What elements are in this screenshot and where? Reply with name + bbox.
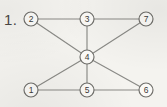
graph-node-label-1: 1 bbox=[29, 85, 34, 95]
graph-node-2: 2 bbox=[24, 12, 38, 26]
graph-edge-2-4 bbox=[36, 23, 81, 54]
graph-figure: 1. 2374156 bbox=[0, 0, 167, 107]
graph-diagram: 2374156 bbox=[0, 0, 167, 107]
graph-node-3: 3 bbox=[80, 12, 94, 26]
graph-edge-7-4 bbox=[92, 23, 140, 54]
graph-node-label-7: 7 bbox=[144, 14, 149, 24]
graph-node-6: 6 bbox=[139, 83, 153, 97]
graph-node-label-6: 6 bbox=[144, 85, 149, 95]
graph-edge-4-6 bbox=[93, 60, 141, 87]
graph-node-label-5: 5 bbox=[85, 85, 90, 95]
node-layer: 2374156 bbox=[24, 12, 153, 97]
graph-node-label-2: 2 bbox=[29, 14, 34, 24]
graph-node-1: 1 bbox=[24, 83, 38, 97]
graph-node-7: 7 bbox=[139, 12, 153, 26]
graph-node-5: 5 bbox=[80, 83, 94, 97]
graph-edge-4-1 bbox=[37, 60, 82, 86]
graph-node-label-4: 4 bbox=[85, 52, 90, 62]
graph-node-label-3: 3 bbox=[85, 14, 90, 24]
graph-node-4: 4 bbox=[80, 50, 94, 64]
